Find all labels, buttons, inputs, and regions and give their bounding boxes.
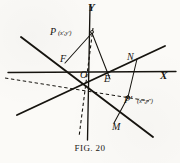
point-coords-pprime: (x",y") <box>137 98 153 105</box>
point-label-m: M <box>112 122 120 132</box>
figure-drawing <box>0 0 180 163</box>
origin-label: O <box>80 70 87 80</box>
segment-p-to-f <box>65 33 92 63</box>
point-label-pprime: P' <box>124 95 132 105</box>
point-coords-p: (x',y') <box>58 30 71 37</box>
point-label-f: F <box>60 54 66 64</box>
point-label-p: P <box>50 27 56 37</box>
figure-caption: FIG. 20 <box>0 143 180 153</box>
x-axis-label: X <box>160 70 167 81</box>
figure-container: Y X O P (x',y') P' (x",y") F E N M FIG. … <box>0 0 180 163</box>
oblique-line-en <box>17 46 165 115</box>
segment-pprime-to-n <box>128 59 137 97</box>
y-axis-label: Y <box>88 2 95 13</box>
point-label-e: E <box>104 74 110 84</box>
x-axis-line <box>8 72 176 73</box>
caption-text: FIG. 20 <box>75 143 106 153</box>
y-axis-line <box>88 6 91 140</box>
point-label-n: N <box>127 52 134 62</box>
